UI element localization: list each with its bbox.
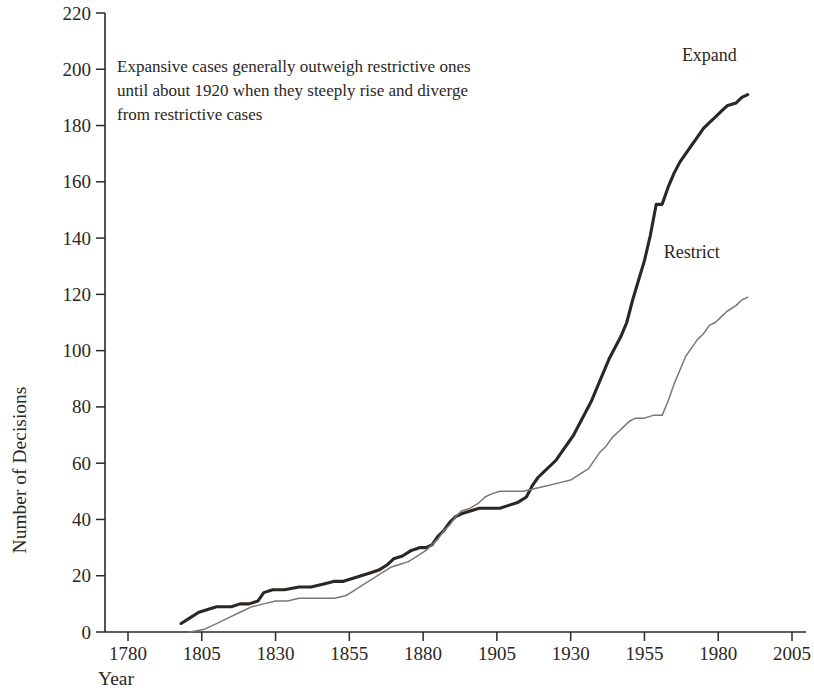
series-line-restrict <box>190 297 748 632</box>
series-line-expand <box>181 95 748 624</box>
series-labels: ExpandRestrict <box>664 45 737 262</box>
y-tick-label: 160 <box>63 171 92 192</box>
x-tick-label: 1780 <box>109 643 147 664</box>
x-tick-label: 1805 <box>183 643 221 664</box>
line-chart: 020406080100120140160180200220 178018051… <box>0 0 814 698</box>
x-tick-label: 1855 <box>330 643 368 664</box>
annotation-line: from restrictive cases <box>117 105 262 124</box>
x-axis: 1780180518301855188019051930195519802005 <box>105 632 811 664</box>
x-tick-label: 1930 <box>552 643 590 664</box>
y-tick-label: 60 <box>72 453 91 474</box>
y-axis: 020406080100120140160180200220 <box>63 3 106 643</box>
y-tick-label: 180 <box>63 115 92 136</box>
y-tick-label: 20 <box>72 565 91 586</box>
y-tick-label: 80 <box>72 396 91 417</box>
chart-annotation: Expansive cases generally outweigh restr… <box>117 57 471 124</box>
series-label-restrict: Restrict <box>664 242 720 262</box>
annotation-line: Expansive cases generally outweigh restr… <box>117 57 471 76</box>
x-tick-label: 1980 <box>699 643 737 664</box>
x-tick-label: 1905 <box>478 643 516 664</box>
y-tick-label: 100 <box>63 340 92 361</box>
x-tick-label: 1955 <box>625 643 663 664</box>
annotation-line: until about 1920 when they steeply rise … <box>117 81 468 100</box>
y-tick-label: 120 <box>63 284 92 305</box>
y-tick-label: 220 <box>63 3 92 24</box>
y-axis-title: Number of Decisions <box>9 387 30 554</box>
x-tick-label: 1830 <box>257 643 295 664</box>
x-tick-label: 2005 <box>773 643 811 664</box>
y-tick-label: 40 <box>72 509 91 530</box>
chart-series-group <box>181 95 748 632</box>
y-tick-label: 0 <box>82 622 92 643</box>
y-tick-label: 200 <box>63 59 92 80</box>
x-tick-label: 1880 <box>404 643 442 664</box>
series-label-expand: Expand <box>682 45 737 65</box>
y-tick-label: 140 <box>63 228 92 249</box>
chart-page: 020406080100120140160180200220 178018051… <box>0 0 814 698</box>
x-axis-title: Year <box>98 668 134 689</box>
